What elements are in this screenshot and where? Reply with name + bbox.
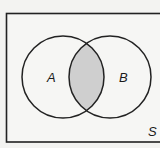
set-b-label: B	[119, 70, 128, 85]
venn-diagram: A B S	[0, 0, 160, 148]
set-a-label: A	[46, 70, 56, 85]
universe-label: S	[148, 124, 157, 139]
